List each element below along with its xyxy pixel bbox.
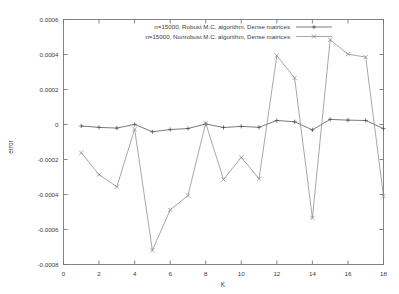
x-tick-label: 6 [168,270,172,277]
x-tick-label: 0 [62,270,66,277]
x-tick-label: 18 [380,270,387,277]
y-tick-label: -0.0004 [38,191,60,198]
x-axis-title: K [221,281,226,288]
y-tick-label: -0.0008 [38,261,60,268]
x-tick-label: 14 [309,270,316,277]
x-tick-label: 16 [344,270,351,277]
y-tick-label: 0.0002 [40,86,59,93]
legend-label-1: n=15000, Nonrobust M.C. algorithm, Dense… [145,33,290,40]
y-tick-label: -0.0006 [38,226,60,233]
x-tick-label: 4 [133,270,137,277]
chart-container: 024681012141618 0.00060.00040.00020-0.00… [0,0,399,294]
legend-label-0: n=15000, Robust M.C. algorithm, Dense ma… [154,23,290,30]
y-tick-label: 0.0006 [40,16,59,23]
y-tick-label: 0 [55,121,59,128]
error-vs-k-line-chart: 024681012141618 0.00060.00040.00020-0.00… [0,0,399,294]
x-tick-label: 10 [238,270,245,277]
x-tick-label: 2 [97,270,101,277]
y-tick-label: -0.0002 [38,156,60,163]
x-tick-label: 8 [204,270,208,277]
x-tick-label: 12 [273,270,280,277]
y-axis-title: error [7,139,14,153]
y-tick-label: 0.0004 [40,51,59,58]
